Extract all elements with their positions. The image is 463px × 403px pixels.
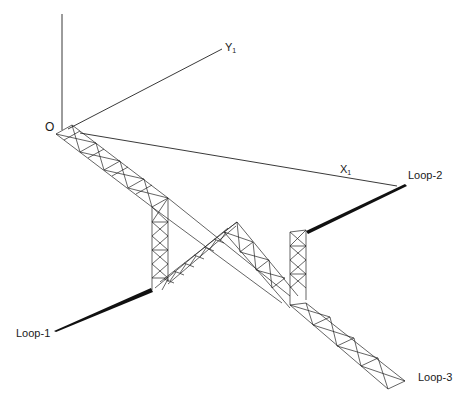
coordinate-axes: [62, 14, 397, 186]
x1-axis: [80, 133, 397, 186]
crossing-member-2: [152, 207, 282, 303]
x1-axis-label: X1: [340, 164, 351, 176]
truss-segment-f: [290, 303, 405, 389]
loop-1-label-text: Loop-1: [16, 327, 50, 339]
loop-2-label-text: Loop-2: [408, 169, 442, 181]
loop-3-label: Loop-3: [418, 372, 452, 383]
crossing-member: [168, 198, 290, 296]
loop-2-label: Loop-2: [408, 170, 442, 181]
truss-vertical-2: [290, 230, 306, 305]
y1-axis: [68, 49, 222, 129]
loop-1-lead: [54, 288, 153, 332]
truss-segment-a: [56, 125, 168, 207]
y1-axis-label: Y1: [225, 42, 236, 54]
truss-segment-d: [224, 222, 298, 308]
origin-label-text: O: [45, 120, 54, 134]
loop-2-lead: [306, 184, 407, 234]
origin-label: O: [45, 121, 54, 133]
y1-label-subscript: 1: [232, 47, 236, 54]
truss-vertical-1: [152, 198, 168, 290]
x1-label-subscript: 1: [347, 169, 351, 176]
truss-diagram: [0, 0, 463, 403]
loop-1-label: Loop-1: [16, 328, 50, 339]
loop-3-label-text: Loop-3: [418, 371, 452, 383]
